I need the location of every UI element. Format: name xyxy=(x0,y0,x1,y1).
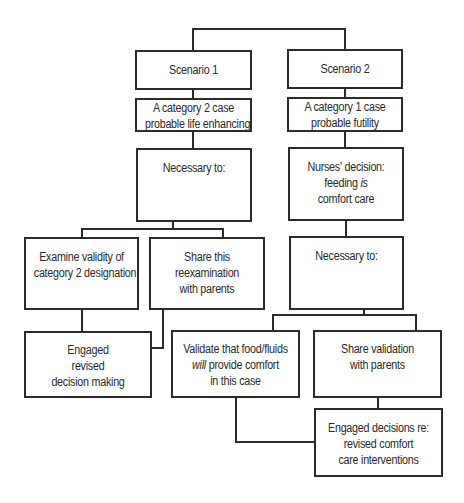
node-text: Examine validity of xyxy=(34,249,129,265)
node-scenario-1: Scenario 1 xyxy=(135,50,252,90)
node-text: reexamination xyxy=(159,265,255,281)
node-text: probable futility xyxy=(297,115,393,131)
cat2-to-necessary-left xyxy=(192,130,194,149)
share-reexam-down xyxy=(162,309,164,349)
node-examine-validity: Examine validity of category 2 designati… xyxy=(24,237,139,310)
node-necessary-to-right: Necessary to: xyxy=(289,236,404,310)
node-text: Share this xyxy=(159,249,255,265)
node-text: Scenario 2 xyxy=(297,61,393,77)
node-text: with parents xyxy=(324,357,432,373)
node-text-mixed: feeding is xyxy=(298,175,394,191)
root-connector xyxy=(192,28,346,30)
nurses-to-necessary-right xyxy=(345,219,347,237)
node-engaged-comfort-care: Engaged decisions re: revised comfort ca… xyxy=(314,408,443,477)
node-text: Engaged decisions re: xyxy=(325,420,433,436)
node-text: Necessary to: xyxy=(146,160,242,176)
root-to-scenario2 xyxy=(344,28,346,50)
node-text: revised xyxy=(35,358,142,374)
node-text: probable life enhancing xyxy=(145,116,242,132)
root-to-scenario1 xyxy=(192,28,194,50)
node-text: comfort care xyxy=(298,191,394,207)
node-text: A category 1 case xyxy=(297,99,393,115)
node-necessary-to-left: Necessary to: xyxy=(136,148,252,222)
node-text: Validate that food/fluids xyxy=(182,341,290,357)
node-text-mixed: will provide comfort xyxy=(182,357,290,373)
node-text: feeding xyxy=(324,176,360,190)
node-text: A category 2 case xyxy=(145,100,242,116)
node-text: decision making xyxy=(35,374,142,390)
node-text: in this case xyxy=(182,373,290,389)
node-share-reexamination: Share this reexamination with parents xyxy=(149,237,265,310)
necessary-left-branch xyxy=(81,228,224,230)
node-text: care interventions xyxy=(325,452,433,468)
node-text: Scenario 1 xyxy=(145,62,242,78)
node-category-2-case: A category 2 case probable life enhancin… xyxy=(135,98,252,132)
node-text: with parents xyxy=(159,281,255,297)
node-category-1-case: A category 1 case probable futility xyxy=(287,97,403,132)
node-text: revised comfort xyxy=(325,436,433,452)
cat1-to-nurses xyxy=(344,130,346,148)
node-text: category 2 designation xyxy=(34,265,129,281)
node-share-validation: Share validation with parents xyxy=(313,330,442,398)
branch-to-share-validation xyxy=(415,314,417,331)
node-text: Nurses' decision: xyxy=(298,159,394,175)
node-text: provide comfort xyxy=(206,358,279,372)
node-text: Share validation xyxy=(324,341,432,357)
node-scenario-2: Scenario 2 xyxy=(287,49,403,89)
node-nurses-decision: Nurses' decision: feeding is comfort car… xyxy=(288,147,404,221)
node-text: Engaged xyxy=(35,342,142,358)
examine-to-engaged xyxy=(81,309,83,332)
share-reexam-to-engaged xyxy=(150,347,164,349)
branch-to-validate xyxy=(272,314,274,331)
node-text-emphasis: will xyxy=(192,358,206,372)
node-engaged-revised-decision: Engaged revised decision making xyxy=(24,331,152,398)
validate-down xyxy=(235,396,237,443)
node-text: Necessary to: xyxy=(299,248,394,264)
validate-to-engaged-comfort xyxy=(235,441,315,443)
node-text-emphasis: is xyxy=(360,176,367,190)
node-validate-food-fluids: Validate that food/fluids will provide c… xyxy=(171,330,300,398)
necessary-right-branch xyxy=(272,314,417,316)
